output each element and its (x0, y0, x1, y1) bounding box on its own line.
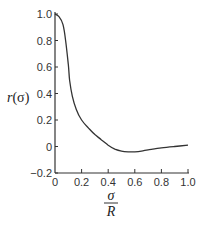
y-tick-label: 0.4 (37, 88, 52, 100)
x-axis-label-numerator: σ (108, 188, 116, 203)
x-tick-label: 1.0 (180, 176, 195, 188)
x-tick-label: 0.8 (154, 176, 169, 188)
y-tick-label: 0.6 (37, 61, 52, 73)
series-line (55, 14, 188, 152)
x-ticks: 00.20.40.60.81.0 (52, 169, 196, 188)
y-axis-label-text: r(σ) (7, 90, 30, 106)
x-tick-label: 0 (52, 176, 58, 188)
x-axis-label-denominator: R (106, 204, 116, 219)
x-tick-label: 0.2 (74, 176, 89, 188)
y-ticks: −0.200.20.40.60.81.0 (30, 8, 58, 179)
y-tick-label: 0.2 (37, 114, 52, 126)
x-tick-label: 0.4 (101, 176, 116, 188)
y-tick-label: 0.8 (37, 35, 52, 47)
y-axis-label: r(σ) (7, 90, 30, 106)
y-tick-label: −0.2 (30, 167, 52, 179)
x-tick-label: 0.6 (127, 176, 142, 188)
correlation-chart: −0.200.20.40.60.81.0 00.20.40.60.81.0 r(… (0, 0, 206, 230)
axes (55, 12, 189, 173)
x-axis-label: σ R (104, 188, 118, 219)
y-tick-label: 1.0 (37, 8, 52, 20)
y-tick-label: 0 (46, 141, 52, 153)
